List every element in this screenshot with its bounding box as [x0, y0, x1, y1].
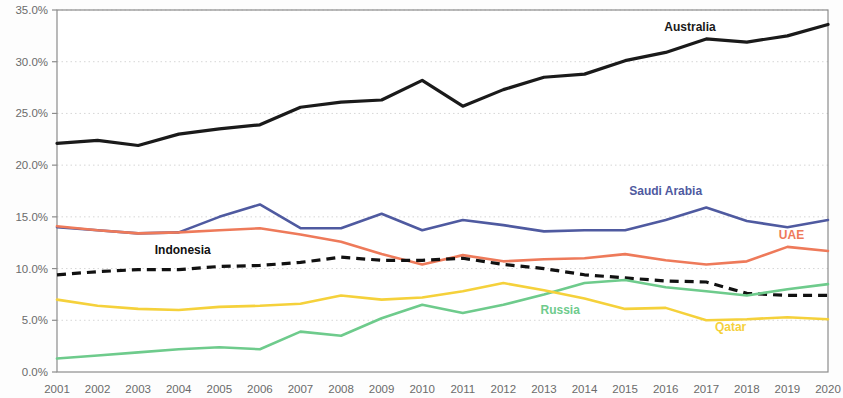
x-tick-label: 2009: [369, 383, 395, 395]
x-tick-label: 2018: [734, 383, 760, 395]
y-tick-label: 35.0%: [15, 4, 48, 16]
y-axis-ticks: 0.0%5.0%10.0%15.0%20.0%25.0%30.0%35.0%: [15, 4, 57, 378]
x-tick-label: 2013: [531, 383, 557, 395]
series-label-uae: UAE: [779, 228, 804, 242]
x-tick-label: 2019: [775, 383, 801, 395]
x-tick-label: 2016: [653, 383, 679, 395]
x-tick-label: 2006: [247, 383, 273, 395]
chart-canvas: 0.0%5.0%10.0%15.0%20.0%25.0%30.0%35.0%20…: [0, 0, 843, 398]
y-tick-label: 0.0%: [22, 366, 48, 378]
x-tick-label: 2001: [44, 383, 70, 395]
y-tick-label: 20.0%: [15, 159, 48, 171]
series-label-qatar: Qatar: [715, 320, 747, 334]
x-tick-label: 2003: [125, 383, 151, 395]
y-tick-label: 30.0%: [15, 56, 48, 68]
y-tick-label: 15.0%: [15, 211, 48, 223]
y-tick-label: 10.0%: [15, 263, 48, 275]
y-tick-label: 25.0%: [15, 107, 48, 119]
x-tick-label: 2012: [491, 383, 517, 395]
series-label-saudi-arabia: Saudi Arabia: [629, 184, 702, 198]
x-tick-label: 2005: [207, 383, 233, 395]
x-tick-label: 2008: [328, 383, 354, 395]
x-tick-label: 2020: [815, 383, 841, 395]
line-chart: 0.0%5.0%10.0%15.0%20.0%25.0%30.0%35.0%20…: [0, 0, 843, 398]
x-tick-label: 2015: [612, 383, 638, 395]
series-label-australia: Australia: [664, 20, 716, 34]
x-tick-label: 2017: [693, 383, 719, 395]
x-axis-ticks: 2001200220032004200520062007200820092010…: [44, 383, 841, 395]
x-tick-label: 2010: [409, 383, 435, 395]
x-tick-label: 2004: [166, 383, 192, 395]
x-tick-label: 2011: [450, 383, 475, 395]
y-tick-label: 5.0%: [22, 314, 48, 326]
x-tick-label: 2007: [288, 383, 314, 395]
series-label-russia: Russia: [540, 303, 580, 317]
series-label-indonesia: Indonesia: [155, 243, 211, 257]
plot-background: [57, 10, 828, 372]
x-tick-label: 2014: [572, 383, 598, 395]
x-tick-label: 2002: [85, 383, 111, 395]
